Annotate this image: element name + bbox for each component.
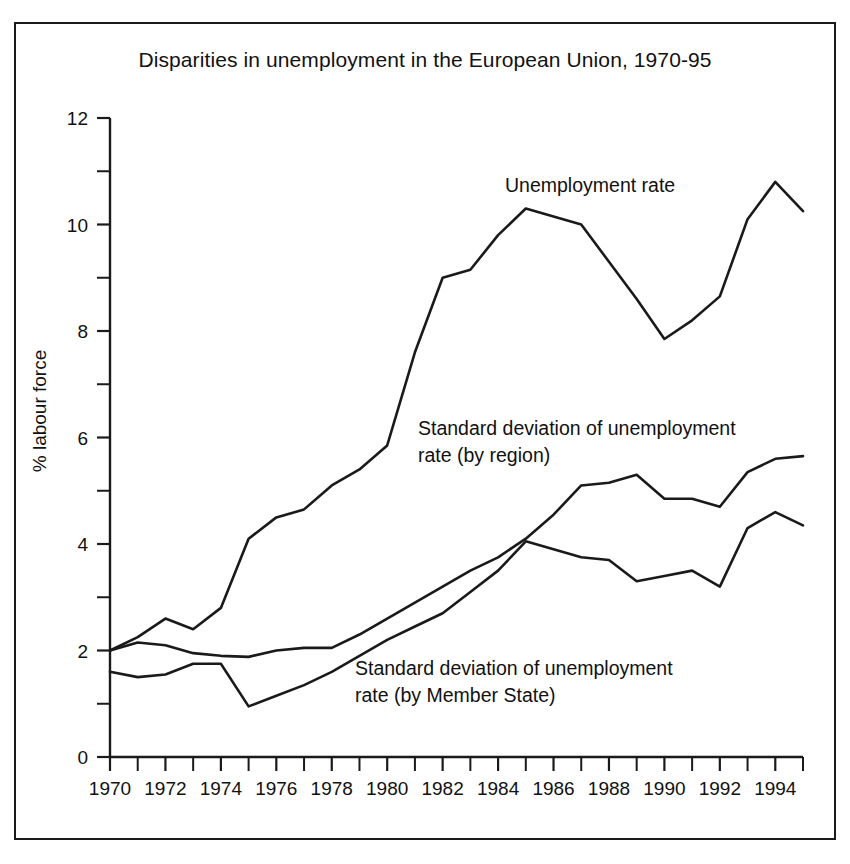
x-tick-label: 1978 [311,778,353,799]
x-tick-label: 1972 [144,778,186,799]
x-tick-label: 1976 [255,778,297,799]
y-tick-label: 4 [77,534,88,555]
x-tick-label: 1990 [643,778,685,799]
annotation-unemployment-rate: Unemployment rate [505,172,675,199]
y-axis-ticks [97,118,110,757]
y-tick-label: 2 [77,641,88,662]
y-tick-label: 8 [77,321,88,342]
y-tick-label: 0 [77,747,88,768]
annotation-sd-by-region: Standard deviation of unemployment rate … [418,415,736,469]
y-tick-label: 10 [67,215,88,236]
series-line-1 [110,456,803,657]
x-tick-label: 1994 [754,778,797,799]
x-axis-tick-labels: 1970197219741976197819801982198419861988… [89,778,797,799]
chart-figure: Disparities in unemployment in the Europ… [0,0,850,864]
x-tick-label: 1992 [699,778,741,799]
x-tick-label: 1988 [588,778,630,799]
x-tick-label: 1970 [89,778,131,799]
x-tick-label: 1974 [200,778,243,799]
y-axis-tick-labels: 024681012 [67,108,89,768]
x-axis-ticks [110,757,803,771]
y-tick-label: 6 [77,428,88,449]
x-tick-label: 1984 [477,778,520,799]
y-tick-label: 12 [67,108,88,129]
x-tick-label: 1982 [421,778,463,799]
x-tick-label: 1980 [366,778,408,799]
annotation-sd-by-member-state: Standard deviation of unemployment rate … [355,655,673,709]
x-tick-label: 1986 [532,778,574,799]
